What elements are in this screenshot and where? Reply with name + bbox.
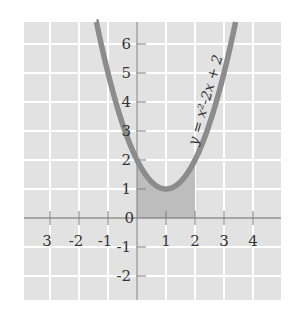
tick-label: 3 xyxy=(42,232,52,250)
tick-label: 4 xyxy=(121,93,131,111)
tick-label: -2 xyxy=(116,267,131,285)
tick-label: -2 xyxy=(69,232,84,250)
tick-label: 6 xyxy=(121,35,131,53)
tick-label: 4 xyxy=(248,232,258,250)
tick-label: 2 xyxy=(190,232,200,250)
chart-plot: 3-2-11234654321-1-20 y = x²-2x + 2 xyxy=(0,0,292,312)
tick-label: -1 xyxy=(98,232,113,250)
tick-label: 3 xyxy=(219,232,229,250)
tick-label: -1 xyxy=(116,238,131,256)
tick-label: 5 xyxy=(121,64,131,82)
tick-label: 1 xyxy=(121,180,131,198)
tick-label: 3 xyxy=(121,122,131,140)
tick-label: 1 xyxy=(161,232,171,250)
tick-label: 2 xyxy=(121,151,131,169)
tick-label: 0 xyxy=(124,209,134,227)
